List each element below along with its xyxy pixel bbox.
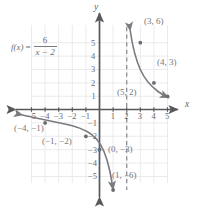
- point-0-n3: [98, 148, 102, 152]
- function-label-fraction: 6 x − 2: [34, 36, 57, 58]
- y-tick-label-3: 3: [91, 65, 95, 74]
- function-label-lhs: f(x): [11, 42, 24, 52]
- annotation-point-3-6: (3, 6): [144, 17, 164, 26]
- x-tick-label--5: −5: [27, 112, 36, 121]
- point-5-2: [166, 94, 170, 98]
- y-tick-label-5: 5: [91, 39, 95, 48]
- annotation-point--4--1: (−4, −1): [14, 124, 44, 133]
- x-tick-label-2: 2: [124, 112, 128, 121]
- x-tick-label-3: 3: [138, 112, 142, 121]
- graph-figure: f(x) = 6 x − 2 y x −5 −4 −3 −2 −1 1 2 3 …: [0, 0, 205, 209]
- annotation-point-5-2: (5, 2): [117, 88, 137, 97]
- x-tick-label--3: −3: [54, 112, 63, 121]
- point-4-3: [152, 81, 156, 85]
- fraction-denominator: x − 2: [34, 46, 57, 57]
- x-tick-label--4: −4: [41, 112, 50, 121]
- annotation-point-4-3: (4, 3): [157, 58, 177, 67]
- x-axis-label: x: [185, 100, 189, 110]
- function-label-equals: =: [26, 42, 31, 52]
- annotation-point--1--2: (−1, −2): [42, 137, 72, 146]
- x-tick-label-5: 5: [165, 112, 169, 121]
- y-tick-label-2: 2: [91, 79, 95, 88]
- fraction-numerator: 6: [40, 36, 51, 45]
- y-tick-label--5: −5: [88, 172, 97, 181]
- point-1-n6: [111, 188, 115, 192]
- y-tick-label--3: −3: [88, 146, 97, 155]
- y-tick-label--1: −1: [88, 119, 97, 128]
- annotation-point-1--6: (1, −6): [112, 171, 137, 180]
- x-tick-label--2: −2: [68, 112, 77, 121]
- y-tick-label--2: −2: [88, 132, 97, 141]
- coordinate-plane-svg: [0, 0, 205, 209]
- y-axis-label: y: [94, 3, 98, 13]
- annotation-point-0--3: (0, −3): [108, 145, 133, 154]
- y-tick-label--4: −4: [88, 159, 97, 168]
- x-tick-label-4: 4: [151, 112, 155, 121]
- x-tick-label-1: 1: [111, 112, 115, 121]
- point-3-6: [138, 41, 142, 45]
- function-label: f(x) = 6 x − 2: [11, 36, 57, 58]
- point-n4-n1: [43, 121, 47, 125]
- y-tick-label-1: 1: [92, 92, 96, 101]
- y-tick-label-4: 4: [91, 52, 95, 61]
